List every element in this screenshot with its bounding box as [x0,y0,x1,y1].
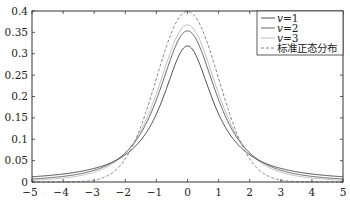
x-tick-label: 5 [340,186,347,198]
x-tick-label: 4 [309,186,316,198]
y-tick-label: 0.05 [5,154,28,166]
y-tick-label: 0.25 [5,69,28,81]
x-tick-label: 1 [215,186,222,198]
x-tick-label: −3 [84,186,99,198]
y-tick-label: 0.3 [11,47,28,59]
y-tick-label: 0.35 [5,26,28,38]
y-tick-label: 0 [21,176,28,188]
x-tick-label: 2 [246,186,253,198]
curve-v1 [32,46,343,177]
x-tick-label: 3 [277,186,284,198]
x-tick-label: −2 [116,186,131,198]
y-tick-label: 0.15 [5,111,28,123]
y-tick-label: 0.1 [11,133,28,145]
x-tick-label: −4 [53,186,69,198]
y-tick-label: 0.4 [11,5,28,17]
x-tick-label: −5 [22,186,37,198]
y-axis-tick-labels: 00.050.10.150.20.250.30.350.4 [5,5,29,188]
x-tick-label: 0 [184,186,191,198]
t-distribution-chart: −5−4−3−2−1012345 00.050.10.150.20.250.30… [0,0,350,208]
legend-label-normal: 标准正态分布 [277,42,337,54]
legend: v=1 v=2 v=3 标准正态分布 [257,11,343,55]
y-tick-label: 0.2 [11,90,28,102]
x-axis-tick-labels: −5−4−3−2−1012345 [22,186,346,198]
x-tick-label: −1 [147,186,162,198]
